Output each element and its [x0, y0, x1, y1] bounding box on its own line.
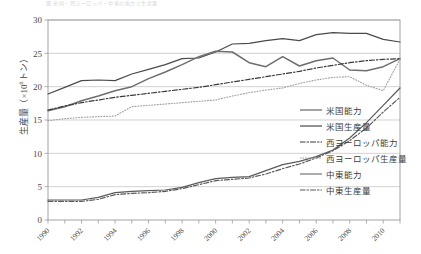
legend-item[interactable]: 米国能力: [300, 102, 418, 118]
x-tick-label: 2010: [370, 226, 387, 243]
y-tick-label: 20: [33, 82, 43, 92]
y-tick-label: 30: [33, 15, 43, 25]
legend-item[interactable]: 中東生産量: [300, 182, 418, 198]
legend-label: 米国能力: [326, 104, 362, 116]
legend-label: 米国生産量: [326, 120, 371, 132]
y-tick-label: 10: [33, 149, 43, 159]
y-tick-label: 25: [33, 49, 43, 59]
x-tick-label: 2006: [303, 226, 320, 243]
legend-swatch-weurope-production: [300, 153, 322, 163]
legend-item[interactable]: 西ヨーロッパ生産量: [300, 150, 418, 166]
x-tick-label: 1992: [68, 226, 85, 243]
y-tick-labels: 051015202530: [33, 15, 43, 225]
y-tick-marks: [45, 20, 49, 220]
x-tick-label: 1990: [34, 226, 51, 243]
x-tick-label: 1998: [169, 226, 186, 243]
x-tick-marks: [48, 220, 400, 224]
x-tick-label: 1994: [101, 226, 118, 243]
legend-swatch-mideast-capacity: [300, 169, 322, 179]
y-tick-label: 15: [33, 115, 43, 125]
legend-swatch-mideast-production: [300, 185, 322, 195]
legend-label: 中東能力: [326, 168, 362, 180]
legend-swatch-us-capacity: [300, 105, 322, 115]
legend-item[interactable]: 中東能力: [300, 166, 418, 182]
x-tick-label: 2008: [336, 226, 353, 243]
legend-label: 西ヨーロッパ能力: [326, 136, 398, 148]
legend-label: 西ヨーロッパ生産量: [326, 152, 407, 164]
x-tick-label: 2002: [236, 226, 253, 243]
y-tick-label: 5: [38, 182, 43, 192]
x-tick-label: 1996: [135, 226, 152, 243]
legend-swatch-weurope-capacity: [300, 137, 322, 147]
x-tick-label: 2000: [202, 226, 219, 243]
legend-label: 中東生産量: [326, 184, 371, 196]
y-tick-label: 0: [38, 215, 43, 225]
legend-item[interactable]: 西ヨーロッパ能力: [300, 134, 418, 150]
legend-swatch-us-production: [300, 121, 322, 131]
legend-item[interactable]: 米国生産量: [300, 118, 418, 134]
legend: 米国能力 米国生産量 西ヨーロッパ能力 西ヨーロッパ生産量 中東能力 中東生産量: [300, 102, 418, 198]
x-tick-labels: 1990199219941996199820002002200420062008…: [34, 226, 386, 243]
chart-figure: 図 米国・西ヨーロッパ・中東の能力と生産量 生産量（×106トン） 051015…: [0, 0, 421, 254]
x-tick-label: 2004: [269, 226, 286, 243]
